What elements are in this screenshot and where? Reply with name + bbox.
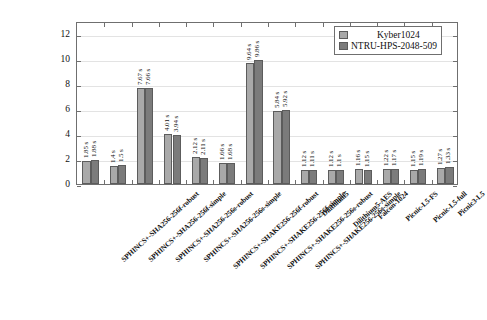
bar-value-label: 1.15 s xyxy=(364,150,371,166)
bar xyxy=(355,169,363,184)
legend-entry-kyber1024: Kyber1024 xyxy=(339,29,437,40)
bar xyxy=(164,134,172,184)
bar-value-label: 5.92 s xyxy=(282,91,289,107)
bar-value-label: 1.19 s xyxy=(418,150,425,166)
bar-value-label: 4.01 s xyxy=(164,115,171,131)
bar xyxy=(254,60,262,184)
bar-value-label: 9.86 s xyxy=(254,41,261,57)
y-tick xyxy=(77,161,81,162)
x-tick-top xyxy=(241,23,242,27)
bar-value-label: 3.94 s xyxy=(173,115,180,131)
y-tick-right xyxy=(453,61,457,62)
x-tick xyxy=(104,180,105,184)
bar-value-label: 2.12 s xyxy=(192,138,199,154)
chart-legend: Kyber1024 NTRU-HPS-2048-509 xyxy=(334,26,442,55)
bar xyxy=(200,158,208,184)
y-tick-label: 10 xyxy=(46,55,70,65)
bar xyxy=(391,169,399,184)
x-tick xyxy=(350,180,351,184)
x-tick-top xyxy=(104,23,105,27)
x-tick xyxy=(241,180,242,184)
bar xyxy=(410,170,418,184)
bar xyxy=(82,161,90,184)
bar-value-label: 1.68 s xyxy=(227,144,234,160)
bar-value-label: 2.11 s xyxy=(200,139,207,155)
bar xyxy=(437,168,445,184)
y-tick xyxy=(77,86,81,87)
bar-value-label: 1.88 s xyxy=(91,141,98,157)
y-tick-label: 8 xyxy=(46,80,70,90)
bar xyxy=(110,166,118,184)
bar xyxy=(219,163,227,184)
x-tick xyxy=(186,180,187,184)
legend-swatch-kyber1024 xyxy=(339,31,348,39)
y-tick-label: 6 xyxy=(46,105,70,115)
x-tick-top xyxy=(213,23,214,27)
y-tick-right xyxy=(453,111,457,112)
bar-value-label: 1.11 s xyxy=(309,151,316,167)
bar xyxy=(91,160,99,184)
legend-swatch-ntru-hps-2048-509 xyxy=(339,42,348,50)
gridline xyxy=(77,61,457,62)
x-tick xyxy=(213,180,214,184)
bar xyxy=(118,165,126,184)
bar-value-label: 1.85 s xyxy=(83,142,90,158)
y-tick-right xyxy=(453,136,457,137)
y-tick xyxy=(77,186,81,187)
bar xyxy=(445,167,453,184)
x-tick xyxy=(377,180,378,184)
bar xyxy=(145,88,153,184)
y-tick-label: 12 xyxy=(46,30,70,40)
bar xyxy=(309,170,317,184)
bar-value-label: 1.33 s xyxy=(445,148,452,164)
gridline xyxy=(77,136,457,137)
x-tick xyxy=(159,180,160,184)
y-tick xyxy=(77,36,81,37)
bar xyxy=(227,163,235,184)
bar xyxy=(246,63,254,184)
gridline xyxy=(77,161,457,162)
bar xyxy=(336,170,344,184)
bar xyxy=(282,110,290,184)
x-tick xyxy=(432,180,433,184)
bar xyxy=(137,88,145,184)
bar-value-label: 7.66 s xyxy=(145,69,152,85)
bar xyxy=(364,170,372,184)
y-tick-right xyxy=(453,186,457,187)
x-tick-top xyxy=(132,23,133,27)
bar xyxy=(173,135,181,184)
y-tick xyxy=(77,61,81,62)
bar-value-label: 1.17 s xyxy=(391,150,398,166)
bar-value-label: 1.4 s xyxy=(110,151,117,164)
x-tick xyxy=(268,180,269,184)
bar-value-label: 1.12 s xyxy=(301,151,308,167)
y-tick-label: 2 xyxy=(46,155,70,165)
y-tick xyxy=(77,136,81,137)
bar-value-label: 1.66 s xyxy=(219,144,226,160)
x-tick-top xyxy=(295,23,296,27)
gridline xyxy=(77,86,457,87)
y-tick-label: 0 xyxy=(46,180,70,190)
bar-value-label: 1.16 s xyxy=(355,150,362,166)
x-tick xyxy=(323,180,324,184)
bar xyxy=(383,169,391,184)
x-tick-top xyxy=(159,23,160,27)
bar xyxy=(328,170,336,184)
bar-value-label: 1.22 s xyxy=(383,150,390,166)
x-tick-top xyxy=(323,23,324,27)
bar xyxy=(273,111,281,184)
x-tick xyxy=(404,180,405,184)
bar xyxy=(418,169,426,184)
y-tick-label: 4 xyxy=(46,130,70,140)
bar-value-label: 1.15 s xyxy=(410,150,417,166)
x-tick xyxy=(295,180,296,184)
legend-entry-ntru-hps-2048-509: NTRU-HPS-2048-509 xyxy=(339,40,437,51)
bar xyxy=(301,170,309,184)
bar xyxy=(192,157,200,184)
y-tick-right xyxy=(453,36,457,37)
x-tick-top xyxy=(186,23,187,27)
x-tick xyxy=(132,180,133,184)
y-tick xyxy=(77,111,81,112)
y-tick-right xyxy=(453,86,457,87)
